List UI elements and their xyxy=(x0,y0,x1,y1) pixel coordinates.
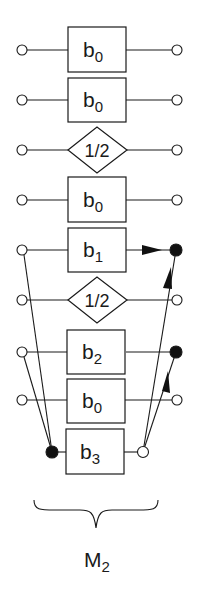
output-node xyxy=(172,95,182,105)
arrowhead-icon xyxy=(163,267,172,289)
output-node xyxy=(172,395,182,405)
row-4-b0: b0 xyxy=(17,177,182,222)
input-node xyxy=(17,347,27,357)
output-node xyxy=(172,195,182,205)
arrowhead-icon xyxy=(142,245,162,255)
line-from-row5-input xyxy=(24,255,52,452)
row-2-b0: b0 xyxy=(17,78,182,122)
input-node xyxy=(17,145,27,155)
input-node xyxy=(17,95,27,105)
input-node xyxy=(17,195,27,205)
row-5-b1: b1 xyxy=(17,228,172,272)
brace-label: M2 xyxy=(84,548,110,575)
row-1-b0: b0 xyxy=(17,27,182,72)
input-node xyxy=(17,395,27,405)
output-node xyxy=(172,45,182,55)
input-node xyxy=(17,295,27,305)
brace-icon xyxy=(34,500,158,528)
summing-node-row5 xyxy=(170,244,182,256)
b3-output-node xyxy=(138,447,149,458)
output-node xyxy=(172,145,182,155)
left-converging-lines xyxy=(24,255,52,452)
line-from-row7-input xyxy=(24,357,52,452)
line-to-row7-output xyxy=(143,352,176,452)
row-9-b3: b3 xyxy=(56,429,138,474)
branch-node-b3-input xyxy=(46,446,58,458)
half-label: 1/2 xyxy=(84,291,109,311)
input-node xyxy=(17,245,27,255)
summing-node-row7 xyxy=(170,346,182,358)
row-3-half: 1/2 xyxy=(17,127,182,173)
input-node xyxy=(17,45,27,55)
half-label: 1/2 xyxy=(84,141,109,161)
network-diagram: b0 b0 1/2 b0 b1 xyxy=(0,0,197,591)
output-node xyxy=(172,295,182,305)
row-6-half: 1/2 xyxy=(17,277,182,323)
